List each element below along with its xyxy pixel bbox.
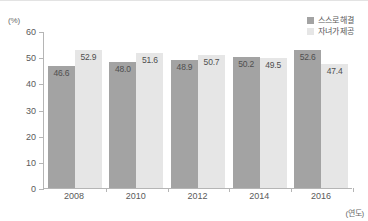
- y-axis-tick: [39, 111, 44, 112]
- bar-group: 52.647.4: [290, 32, 352, 188]
- bar: 52.9: [75, 50, 102, 188]
- x-axis-unit-label: (연도): [345, 207, 364, 218]
- bar-groups: 46.652.948.051.648.950.750.249.552.647.4: [44, 32, 352, 188]
- y-axis-tick: [39, 58, 44, 59]
- bar: 50.2: [233, 57, 260, 188]
- y-axis-tick-label: 50: [26, 53, 36, 63]
- bar-chart: (%) 스스로 해결자녀가 제공 46.652.948.051.648.950.…: [0, 0, 368, 221]
- x-axis-category-label: 2010: [105, 191, 167, 201]
- bar: 49.5: [260, 58, 287, 188]
- bar: 51.6: [136, 53, 163, 188]
- legend-item-label: 스스로 해결: [318, 16, 354, 25]
- bar-value-label: 47.4: [327, 66, 343, 76]
- plot-area: 46.652.948.051.648.950.750.249.552.647.4…: [43, 32, 352, 189]
- bar-value-label: 52.6: [300, 52, 316, 62]
- bar-group: 48.950.7: [167, 32, 229, 188]
- bar: 48.0: [109, 62, 136, 188]
- bar-value-label: 50.2: [238, 59, 254, 69]
- x-axis-tick-labels: 20082010201220142016: [43, 191, 352, 201]
- bar-value-label: 46.6: [53, 68, 69, 78]
- y-axis-tick-label: 40: [26, 79, 36, 89]
- y-axis-unit-label: (%): [8, 16, 20, 25]
- bar: 46.6: [48, 66, 75, 188]
- bar: 52.6: [294, 50, 321, 188]
- x-axis-category-label: 2014: [228, 191, 290, 201]
- bar-value-label: 51.6: [142, 55, 158, 65]
- legend-item: 스스로 해결: [307, 16, 354, 25]
- y-axis-tick-label: 0: [31, 184, 36, 194]
- y-axis-tick: [39, 137, 44, 138]
- x-axis-category-label: 2016: [290, 191, 352, 201]
- bar: 47.4: [321, 64, 348, 188]
- bar-value-label: 49.5: [265, 60, 281, 70]
- bar-group: 50.249.5: [229, 32, 291, 188]
- bar: 50.7: [198, 55, 225, 188]
- x-axis-category-label: 2012: [167, 191, 229, 201]
- bar-value-label: 48.9: [177, 62, 193, 72]
- bar-value-label: 50.7: [204, 57, 220, 67]
- y-axis-tick: [39, 189, 44, 190]
- bar-value-label: 48.0: [115, 64, 131, 74]
- x-axis-category-label: 2008: [43, 191, 105, 201]
- bar-group: 46.652.9: [44, 32, 106, 188]
- y-axis-tick: [39, 84, 44, 85]
- y-axis-tick: [39, 163, 44, 164]
- x-axis-tick: [353, 188, 354, 192]
- y-axis-tick-label: 30: [26, 106, 36, 116]
- bar: 48.9: [171, 60, 198, 188]
- y-axis-tick-label: 20: [26, 132, 36, 142]
- legend-swatch-icon: [307, 17, 314, 24]
- bar-group: 48.051.6: [106, 32, 168, 188]
- y-axis-tick: [39, 32, 44, 33]
- y-axis-tick-label: 10: [26, 158, 36, 168]
- bar-value-label: 52.9: [80, 52, 96, 62]
- y-axis-tick-label: 60: [26, 27, 36, 37]
